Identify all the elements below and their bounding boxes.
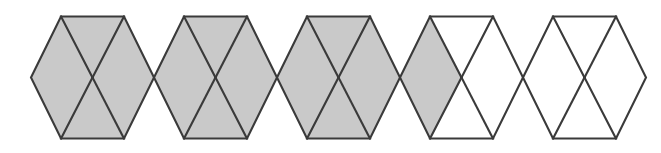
hexagon-2 — [154, 17, 277, 139]
hexagon-4 — [400, 17, 523, 139]
hexagon-group — [31, 17, 646, 139]
hexagon-5 — [523, 17, 646, 139]
hexagon-3 — [277, 17, 400, 139]
hexagon-figure — [0, 0, 661, 153]
hexagon-row-diagram — [0, 0, 661, 153]
hexagon-1 — [31, 17, 154, 139]
